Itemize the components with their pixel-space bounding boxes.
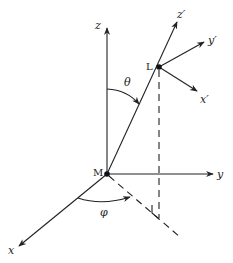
x-label: x: [8, 244, 15, 257]
right-angle-marker: [152, 205, 159, 219]
y-label: y: [216, 168, 224, 181]
phi-arc: [78, 197, 130, 202]
point-m-label: M: [93, 167, 103, 178]
theta-arc: [107, 89, 139, 104]
x-prime-axis: [159, 67, 197, 91]
z-prime-axis: [107, 22, 177, 174]
z-label: z: [94, 19, 101, 32]
theta-label: θ: [124, 76, 131, 89]
phi-label: φ: [100, 206, 108, 219]
coordinate-diagram: z z′ y′ x′ y x L M θ φ: [0, 0, 233, 263]
point-m: [104, 171, 110, 177]
x-axis: [19, 174, 107, 246]
point-l: [156, 64, 162, 70]
point-l-label: L: [146, 61, 153, 72]
y-prime-label: y′: [207, 34, 217, 47]
z-prime-label: z′: [176, 8, 186, 21]
azimuth-projection-line: [109, 176, 180, 237]
x-prime-label: x′: [200, 93, 209, 106]
